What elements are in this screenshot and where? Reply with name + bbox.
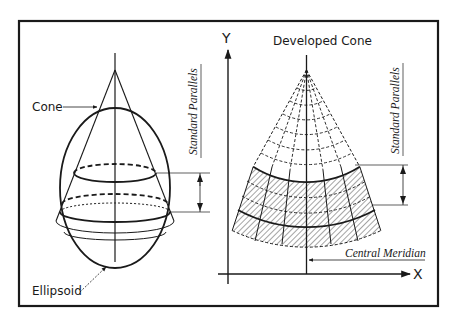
conic-projection-diagram: Cone Ellipsoid Standard Parallels Develo… <box>0 0 458 326</box>
left-standard-parallels-label: Standard Parallels <box>187 68 199 155</box>
left-standard-parallels-marker <box>156 64 210 212</box>
ellipsoid-leader-arrow <box>80 267 106 292</box>
ellipsoid-label: Ellipsoid <box>32 284 82 298</box>
cone-ellipsoid-drawing <box>56 53 174 268</box>
right-standard-parallels-label: Standard Parallels <box>389 67 401 154</box>
central-meridian-label: Central Meridian <box>345 247 426 259</box>
y-axis-label: Y <box>221 30 231 46</box>
developed-cone-title: Developed Cone <box>273 34 372 48</box>
x-axis-label: X <box>413 266 423 282</box>
cone-label: Cone <box>32 100 63 114</box>
